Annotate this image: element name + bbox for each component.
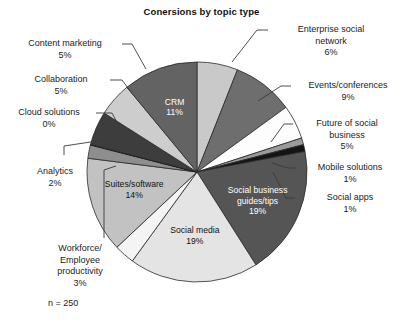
sample-size-note: n = 250 — [48, 298, 78, 308]
callout-label-cloud-solutions: Cloud solutions 0% — [2, 107, 96, 130]
callout-label-workforce-productivity: Workforce/ Employee productivity 3% — [32, 243, 128, 289]
callout-label-future-of-social-business: Future of social business 5% — [297, 118, 397, 153]
pie-slice-label: CRM11% — [165, 97, 185, 118]
leader-line-enterprise-social-network — [232, 30, 268, 62]
leader-line-content-marketing — [122, 44, 146, 69]
callout-label-social-apps: Social apps 1% — [302, 192, 398, 215]
chart-canvas: Conersions by topic type Social bu — [0, 0, 403, 328]
callout-label-events-conferences: Events/conferences 9% — [294, 80, 402, 103]
callout-label-enterprise-social-network: Enterprise social network 6% — [272, 24, 390, 59]
callout-label-collaboration: Collaboration 5% — [12, 74, 110, 97]
callout-label-content-marketing: Content marketing 5% — [6, 38, 124, 61]
callout-label-mobile-solutions: Mobile solutions 1% — [300, 162, 400, 185]
callout-label-analytics: Analytics 2% — [18, 166, 92, 189]
